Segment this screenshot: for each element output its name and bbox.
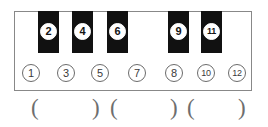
bracket-3-close: )	[238, 96, 246, 119]
key-number-5: 5	[91, 64, 109, 82]
key-number-4: 4	[74, 23, 91, 40]
piano-keyboard-diagram: 1 3 5 7 8 10 12 2 4 6 9 11 ( ) ( ) ( )	[0, 0, 268, 127]
key-number-3: 3	[57, 64, 75, 82]
key-number-12: 12	[228, 64, 246, 82]
bracket-1-open: (	[31, 96, 39, 119]
key-number-9: 9	[170, 23, 187, 40]
key-number-7: 7	[128, 64, 146, 82]
key-number-2: 2	[40, 23, 57, 40]
key-number-1: 1	[22, 64, 40, 82]
key-number-6: 6	[109, 23, 126, 40]
key-number-8: 8	[165, 64, 183, 82]
bracket-1-close: )	[92, 96, 100, 119]
bracket-2-open: (	[110, 96, 118, 119]
bracket-2-close: )	[170, 96, 178, 119]
bracket-3-open: (	[187, 96, 195, 119]
key-number-10: 10	[197, 64, 215, 82]
key-number-11: 11	[203, 23, 220, 40]
